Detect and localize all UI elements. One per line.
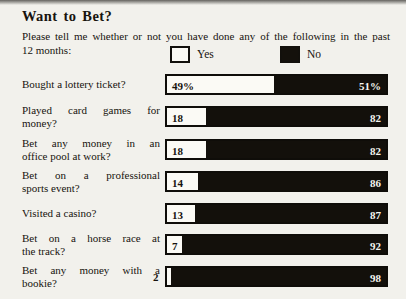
stacked-bar: 18 82 [165,139,388,160]
bar-segment-yes: 49% [167,76,274,93]
stacked-bar: 49% 51% [165,74,388,95]
chart-row-card-games: Played card games for money? 18 82 [22,106,388,127]
bar-segment-no: 98 [171,268,386,285]
bar-segment-yes: 13 [167,205,195,222]
bar-segment-yes: 14 [167,173,198,190]
legend-yes-label: Yes [197,48,214,60]
scan-artifact-top-edge [0,0,406,5]
stacked-bar: 2 98 [165,266,388,287]
bar-segment-no: 51% [274,76,386,93]
bar-segment-no: 82 [206,108,386,125]
category-label: Bet on a professional sports event? [22,171,160,192]
bar-segment-no: 92 [182,236,386,253]
chart-row-casino: Visited a casino? 13 87 [22,203,388,224]
legend-no-label: No [307,48,321,60]
bar-segment-yes: 18 [167,141,206,158]
subtitle-line-1: Please tell me whether or not you have d… [22,29,390,43]
legend-no-swatch [280,46,300,63]
chart-row-lottery: Bought a lottery ticket? 49% 51% [22,74,388,95]
bar-segment-no: 82 [206,141,386,158]
category-label: Bet any money with a bookie? [22,266,160,287]
bar-segment-yes: 18 [167,108,206,125]
stacked-bar: 7 92 [165,234,388,255]
bar-segment-no: 87 [195,205,386,222]
category-label: Bought a lottery ticket? [22,74,160,95]
survey-bar-chart: Want to Bet? Please tell me whether or n… [0,0,406,299]
chart-row-sports-event: Bet on a professional sports event? 14 8… [22,171,388,192]
chart-row-horse-race: Bet on a horse race at the track? 7 92 [22,234,388,255]
stacked-bar: 13 87 [165,203,388,224]
stacked-bar: 18 82 [165,106,388,127]
chart-row-bookie: Bet any money with a bookie? 2 98 [22,266,388,287]
bar-segment-yes: 7 [167,236,182,253]
category-label: Played card games for money? [22,106,160,127]
category-label: Bet on a horse race at the track? [22,234,160,255]
bar-segment-no: 86 [198,173,386,190]
category-label: Bet any money in an office pool at work? [22,139,160,160]
bar-value-outside: 2 [153,268,159,287]
category-label: Visited a casino? [22,203,160,224]
stacked-bar: 14 86 [165,171,388,192]
chart-title: Want to Bet? [22,8,112,25]
legend-yes-swatch [170,46,190,63]
chart-row-office-pool: Bet any money in an office pool at work?… [22,139,388,160]
